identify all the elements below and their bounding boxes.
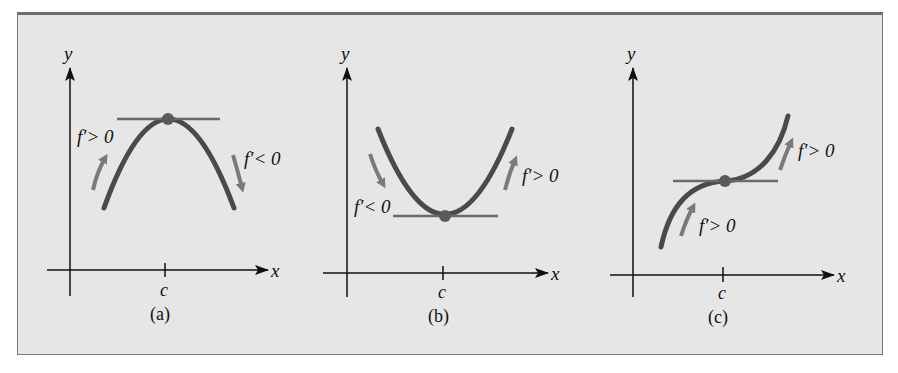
panel-caption: (a) (150, 304, 170, 325)
y-axis-label: y (339, 43, 350, 64)
panel-caption: (c) (708, 307, 728, 328)
tick-label-c: c (160, 280, 168, 300)
tick-label-c: c (438, 282, 446, 302)
arrow-up-icon (681, 207, 693, 236)
critical-point (439, 210, 451, 222)
annotation-left: f′< 0 (354, 196, 391, 217)
arrow-up-icon (93, 158, 105, 190)
annotation-right: f′> 0 (522, 165, 559, 186)
x-axis-label: x (836, 265, 846, 286)
figure-canvas: y x c (a) f′> 0 f′< 0 y x c (b) f′< 0 f′… (0, 0, 898, 373)
y-axis-label: y (625, 43, 636, 64)
arrow-up-icon (505, 160, 515, 190)
critical-point (162, 113, 174, 125)
curve (378, 129, 512, 215)
annotation-upper: f′> 0 (798, 140, 835, 161)
annotation-left: f′> 0 (77, 126, 114, 147)
critical-point (719, 175, 731, 187)
x-axis-label: x (270, 260, 280, 281)
panel-c: y x c (c) f′> 0 f′> 0 (610, 43, 846, 328)
y-axis-label: y (62, 43, 73, 64)
annotation-lower: f′> 0 (699, 215, 736, 236)
tick-label-c: c (718, 283, 726, 303)
panel-caption: (b) (428, 306, 449, 327)
arrow-down-icon (233, 155, 242, 188)
x-axis-label: x (550, 263, 560, 284)
panel-a: y x c (a) f′> 0 f′< 0 (47, 43, 281, 325)
arrow-down-icon (370, 154, 383, 184)
panel-b: y x c (b) f′< 0 f′> 0 (323, 43, 560, 327)
arrow-up-icon (780, 142, 791, 170)
curve (104, 119, 234, 208)
annotation-right: f′< 0 (244, 148, 281, 169)
